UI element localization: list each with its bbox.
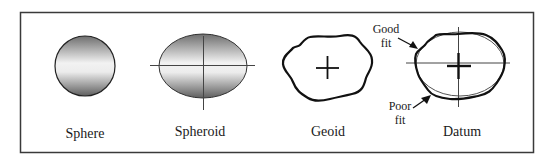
good-fit-arrow-icon: [398, 38, 418, 49]
poor-fit-label-line1: Poor: [389, 99, 412, 113]
good-fit-label-line2: fit: [381, 36, 392, 50]
geoid-figure: [283, 35, 372, 101]
sphere-figure: [55, 36, 115, 96]
spheroid-label: Spheroid: [175, 124, 226, 139]
datum-figure: [406, 27, 510, 107]
poor-fit-label-line2: fit: [395, 113, 406, 127]
geoid-label: Geoid: [311, 124, 345, 139]
sphere-label: Sphere: [66, 126, 105, 141]
datum-label: Datum: [443, 124, 481, 139]
poor-fit-arrow-icon: [413, 95, 431, 108]
spheroid-figure: [150, 34, 255, 110]
earth-models-diagram: Sphere Spheroid Geoid Datum Good fit Poo…: [0, 0, 554, 159]
good-fit-label-line1: Good: [373, 22, 400, 36]
